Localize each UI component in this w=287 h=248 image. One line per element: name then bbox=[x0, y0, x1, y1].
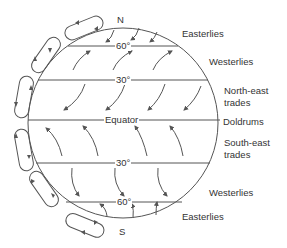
lat-30n-label: 30° bbox=[115, 75, 131, 85]
lat-30s-label: 30° bbox=[115, 158, 131, 168]
cell-ferrel-south bbox=[27, 169, 61, 210]
doldrums-label: Doldrums bbox=[223, 116, 264, 127]
south-pole-label: S bbox=[119, 226, 125, 237]
cell-hadley-north bbox=[13, 75, 34, 119]
lat-60n-label: 60° bbox=[115, 41, 131, 51]
westerlies-north-label: Westerlies bbox=[209, 56, 253, 67]
easterlies-south-label: Easterlies bbox=[182, 211, 224, 222]
westerlies-south-label: Westerlies bbox=[209, 187, 253, 198]
cell-ferrel-north bbox=[29, 35, 63, 76]
circulation-cells bbox=[13, 14, 106, 239]
se-trades-label-2: trades bbox=[224, 149, 250, 160]
north-pole-label: N bbox=[117, 14, 124, 25]
cell-polar-north bbox=[63, 14, 105, 42]
ne-trades-label-1: North-east bbox=[224, 85, 268, 96]
easterlies-north-label: Easterlies bbox=[182, 28, 224, 39]
lat-60s-label: 60° bbox=[116, 197, 132, 207]
ne-trades-label-2: trades bbox=[224, 97, 250, 108]
equator-label: Equator bbox=[104, 115, 139, 125]
se-trades-label-1: South-east bbox=[224, 137, 270, 148]
